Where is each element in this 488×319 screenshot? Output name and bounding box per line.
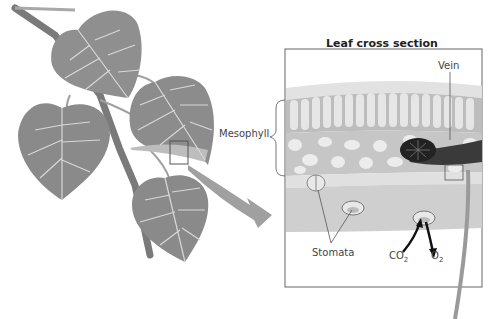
co2-sub: 2 <box>404 256 408 264</box>
o2-sub: 2 <box>439 256 443 264</box>
stoma-1 <box>307 175 325 191</box>
mesophyll-label: Mesophyll <box>219 128 269 139</box>
vein-label: Vein <box>438 60 459 71</box>
mesophyll-brace <box>270 100 285 176</box>
leaf-left <box>18 103 110 200</box>
stoma-3 <box>413 211 435 225</box>
leaf-top <box>51 11 141 98</box>
o2-label: O2 <box>431 250 443 264</box>
figure-title: Leaf cross section <box>326 37 438 50</box>
o2-main: O <box>431 250 439 261</box>
co2-label: CO2 <box>389 250 408 264</box>
leaf-bottom <box>132 175 208 262</box>
stoma-2 <box>342 201 364 215</box>
leaf-right <box>130 76 214 165</box>
stomata-label: Stomata <box>312 247 354 258</box>
co2-main: CO <box>389 250 404 261</box>
palisade-layer <box>286 93 482 133</box>
